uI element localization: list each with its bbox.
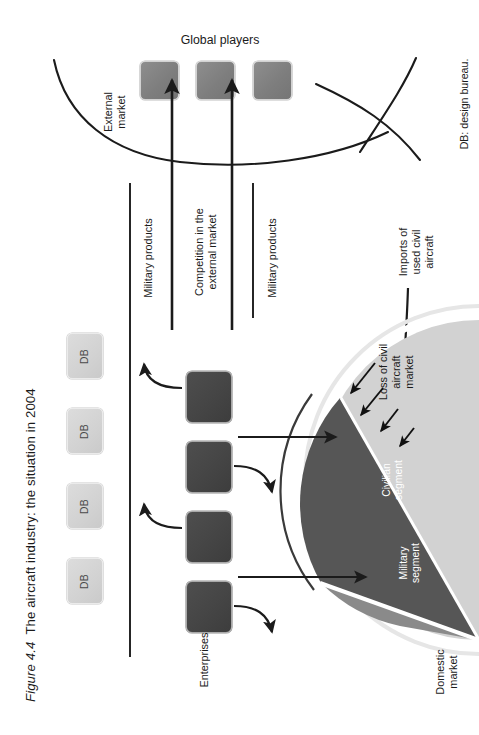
- svg-text:aircraft: aircraft: [390, 355, 402, 388]
- external-market-label: External market: [102, 92, 127, 132]
- enterprise-curved-arrow-down: [234, 466, 272, 492]
- svg-text:segment: segment: [393, 460, 404, 500]
- svg-text:Military products: Military products: [266, 218, 278, 298]
- external-market-label-line1: External: [102, 92, 114, 132]
- svg-text:market: market: [447, 655, 459, 688]
- external-market-right-curve: [360, 58, 416, 152]
- competition-label: Competition in the external market: [193, 208, 218, 296]
- svg-text:external market: external market: [206, 214, 218, 289]
- svg-text:Enterprises: Enterprises: [198, 632, 210, 688]
- enterprise-curved-arrow-down: [234, 606, 272, 632]
- svg-text:segment: segment: [410, 543, 421, 583]
- external-market-crossing-curve: [316, 84, 420, 160]
- svg-text:Domestic: Domestic: [434, 649, 446, 695]
- svg-text:Civilian: Civilian: [381, 463, 392, 497]
- svg-text:Competition in the: Competition in the: [193, 208, 205, 296]
- imports-label: Imports of used civil aircraft: [397, 227, 434, 276]
- military-products-label-left: Military products: [142, 218, 154, 298]
- svg-text:market: market: [403, 355, 415, 388]
- svg-text:Imports of: Imports of: [397, 227, 409, 276]
- svg-text:Military products: Military products: [142, 218, 154, 298]
- svg-text:aircraft: aircraft: [423, 235, 435, 268]
- diagram-vector-layer: External market Military products Compet…: [0, 0, 479, 735]
- civilian-segment-label: Civilian segment: [381, 460, 404, 500]
- domestic-market-label: Domestic market: [434, 649, 459, 695]
- enterprise-to-db-arrow: [144, 504, 182, 528]
- figure-canvas: Figure 4.4 The aircraft industry: the si…: [0, 0, 479, 735]
- svg-text:Military: Military: [398, 546, 409, 580]
- enterprises-label: Enterprises: [198, 632, 210, 688]
- enterprise-to-db-arrow: [144, 364, 182, 388]
- military-products-label-right: Military products: [266, 218, 278, 298]
- svg-text:used civil: used civil: [410, 230, 422, 275]
- external-market-label-line2: market: [115, 95, 127, 128]
- military-segment-label: Military segment: [398, 543, 421, 583]
